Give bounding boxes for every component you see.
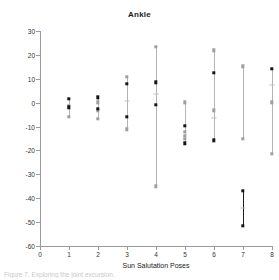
y-tick-mark	[36, 79, 40, 80]
x-tick-label: 5	[183, 251, 187, 258]
data-point	[125, 82, 128, 85]
data-point	[154, 103, 157, 106]
figure-container: Ankle Degrees 3020100-10-20-30-40-50-60 …	[0, 0, 279, 280]
x-tick-mark	[98, 246, 99, 250]
data-point	[241, 207, 246, 208]
x-tick-mark	[185, 246, 186, 250]
x-tick-label: 8	[270, 251, 274, 258]
y-tick-mark	[36, 222, 40, 223]
data-point	[183, 100, 186, 103]
y-tick-label: 0	[31, 99, 35, 106]
x-tick-mark	[40, 246, 41, 250]
y-tick-label: -40	[26, 195, 35, 202]
data-point	[125, 115, 128, 118]
data-point	[183, 142, 186, 145]
x-tick-label: 2	[96, 251, 100, 258]
x-tick-label: 0	[38, 251, 42, 258]
x-axis-label: Sun Salutation Poses	[40, 262, 272, 269]
data-point	[212, 48, 215, 51]
y-tick-label: 10	[28, 75, 35, 82]
data-point	[241, 137, 244, 140]
data-point	[270, 152, 273, 155]
data-point	[96, 117, 99, 120]
data-point	[270, 100, 273, 103]
chart-title: Ankle	[0, 10, 279, 19]
plot-area: 3020100-10-20-30-40-50-60 012345678	[40, 31, 272, 246]
data-point	[212, 71, 215, 74]
x-tick-label: 1	[67, 251, 71, 258]
y-tick-mark	[36, 31, 40, 32]
x-tick-label: 7	[241, 251, 245, 258]
data-point	[67, 97, 70, 100]
x-tick-label: 4	[154, 251, 158, 258]
data-point	[154, 80, 157, 83]
data-point	[154, 185, 157, 188]
y-tick-label: 30	[28, 28, 35, 35]
y-axis-label-wrap: Degrees	[8, 0, 22, 215]
data-point	[96, 100, 99, 103]
x-tick-mark	[243, 246, 244, 250]
x-tick-mark	[127, 246, 128, 250]
data-point	[241, 224, 244, 227]
data-point	[154, 94, 159, 95]
data-point	[183, 124, 186, 127]
data-point	[241, 64, 244, 67]
y-tick-mark	[36, 174, 40, 175]
y-tick-label: -50	[26, 219, 35, 226]
whisker-line	[214, 50, 215, 140]
y-tick-mark	[36, 150, 40, 151]
x-tick-mark	[156, 246, 157, 250]
data-point	[125, 128, 128, 131]
data-point	[183, 137, 186, 140]
x-tick-mark	[272, 246, 273, 250]
x-tick-label: 3	[125, 251, 129, 258]
data-point	[212, 138, 215, 141]
data-point	[212, 118, 217, 119]
data-point	[67, 115, 70, 118]
x-tick-label: 6	[212, 251, 216, 258]
y-tick-label: -20	[26, 147, 35, 154]
data-point	[96, 96, 99, 99]
y-tick-mark	[36, 55, 40, 56]
data-point	[212, 109, 215, 112]
y-tick-label: -30	[26, 171, 35, 178]
y-tick-mark	[36, 103, 40, 104]
data-point	[154, 45, 157, 48]
whisker-line	[272, 69, 273, 155]
y-tick-label: -60	[26, 243, 35, 250]
data-point	[96, 107, 99, 110]
x-tick-mark	[214, 246, 215, 250]
data-point	[125, 75, 128, 78]
figure-caption: Figure 7. Exploring the joint excursion.	[4, 271, 276, 278]
x-tick-mark	[69, 246, 70, 250]
data-point	[125, 100, 130, 101]
data-point	[241, 189, 244, 192]
y-tick-mark	[36, 198, 40, 199]
y-tick-label: -10	[26, 123, 35, 130]
whisker-line	[243, 66, 244, 138]
whisker-line	[156, 47, 157, 187]
y-tick-label: 20	[28, 51, 35, 58]
y-axis-line	[40, 31, 41, 246]
data-point	[270, 85, 275, 86]
whisker-line	[243, 191, 244, 226]
data-point	[67, 106, 70, 109]
y-tick-mark	[36, 127, 40, 128]
data-point	[270, 67, 273, 70]
